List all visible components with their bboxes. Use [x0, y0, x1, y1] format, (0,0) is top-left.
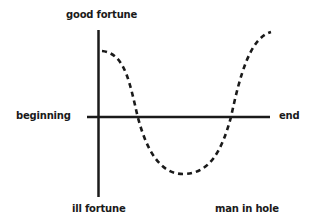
story-curve [102, 32, 271, 174]
y-axis-bottom-label: ill fortune [72, 203, 126, 214]
diagram-title: man in hole [215, 203, 279, 214]
y-axis-top-label: good fortune [66, 9, 137, 20]
x-axis-left-label: beginning [16, 110, 71, 121]
x-axis-right-label: end [279, 110, 299, 121]
